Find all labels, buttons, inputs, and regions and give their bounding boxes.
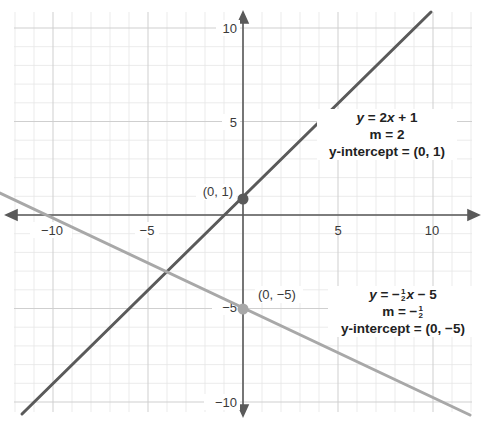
x-tick-5: 5 — [334, 223, 341, 238]
intercept-2: y-intercept = (0, −5) — [328, 320, 478, 337]
fraction-one-half-slope: 12 — [418, 305, 422, 319]
eq2-tail: − 5 — [414, 287, 437, 302]
x-axis-left-arrow-icon — [6, 210, 17, 220]
point-0-minus-5 — [238, 304, 249, 315]
eq1-tail: + 1 — [395, 110, 418, 125]
equation-1: y = 2x + 1 — [317, 109, 457, 126]
y-tick-10: 10 — [223, 21, 237, 36]
eq2-mid: = − — [377, 287, 400, 302]
eq1-x-var: x — [387, 110, 395, 125]
point-0-1 — [238, 194, 249, 205]
y-axis — [238, 12, 248, 416]
equation-label-line-2: y = −12x − 5 m = −12 y-intercept = (0, −… — [328, 286, 478, 337]
equation-label-line-1: y = 2x + 1 m = 2 y-intercept = (0, 1) — [317, 109, 457, 160]
x-tick-10: 10 — [425, 223, 439, 238]
equation-2: y = −12x − 5 — [328, 286, 478, 303]
line-y-equals-2x-plus-1 — [22, 12, 431, 414]
slope-2: m = −12 — [328, 303, 478, 320]
x-tick-minus-10: −10 — [41, 223, 63, 238]
eq2-x-var: x — [406, 287, 414, 302]
x-axis-right-arrow-icon — [468, 210, 479, 220]
slope-1: m = 2 — [317, 126, 457, 143]
x-tick-minus-5: −5 — [140, 223, 155, 238]
y-tick-5: 5 — [230, 115, 237, 130]
eq1-mid: = 2 — [364, 110, 387, 125]
intercept-1: y-intercept = (0, 1) — [317, 143, 457, 160]
point-label-0-minus-5: (0, −5) — [258, 287, 296, 302]
eq2-y-var: y — [369, 287, 377, 302]
frac-den: 2 — [418, 312, 422, 319]
eq1-y-var: y — [357, 110, 365, 125]
frac-den: 2 — [401, 295, 405, 302]
y-tick-minus-10: −10 — [215, 395, 237, 410]
slope-2-prefix: m = − — [382, 304, 417, 319]
fraction-one-half: 12 — [401, 288, 405, 302]
coordinate-plane: −10 −5 5 10 10 5 −5 −10 (0, 1) (0, −5) — [0, 0, 487, 427]
point-label-0-1: (0, 1) — [203, 184, 233, 199]
